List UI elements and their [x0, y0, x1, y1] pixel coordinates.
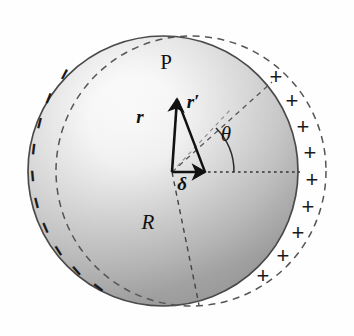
plus-sign: +: [270, 66, 283, 88]
plus-sign: +: [304, 142, 317, 164]
plus-sign: +: [257, 265, 270, 287]
plus-sign: +: [292, 222, 305, 244]
radius-R-label: R: [142, 212, 155, 233]
minus-sign: −: [22, 142, 44, 157]
plus-sign: +: [277, 245, 290, 267]
vector-r-prime-label: r′: [187, 92, 200, 111]
figure-canvas: − − − − − − − − − − + + + + + + + + + P …: [0, 0, 354, 336]
vector-r-label: r: [136, 107, 143, 126]
minus-sign: −: [21, 169, 43, 183]
plus-sign: +: [286, 90, 299, 112]
point-P-label: P: [160, 52, 172, 73]
plus-sign: +: [302, 196, 315, 218]
angle-theta-label: θ: [221, 124, 231, 145]
vector-delta-label: δ: [177, 174, 187, 193]
polarized-sphere-diagram: [0, 0, 354, 336]
plus-sign: +: [297, 116, 310, 138]
plus-sign: +: [306, 169, 319, 191]
